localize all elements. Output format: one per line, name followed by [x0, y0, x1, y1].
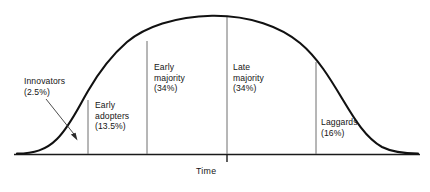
innovators-leader-arrowhead: [71, 133, 78, 141]
segment-label-late-majority: Late majority (34%): [233, 62, 264, 94]
normal-distribution-curve: [17, 16, 418, 154]
segment-label-innovators: Innovators (2.5%): [24, 76, 65, 97]
diffusion-curve-figure: Innovators (2.5%) Early adopters (13.5%)…: [0, 0, 430, 192]
x-axis-label: Time: [196, 166, 216, 176]
segment-label-laggards: Laggards (16%): [321, 117, 358, 138]
innovators-leader-line: [46, 99, 76, 136]
segment-label-early-adopters: Early adopters (13.5%): [95, 100, 129, 132]
segment-label-early-majority: Early majority (34%): [154, 62, 185, 94]
